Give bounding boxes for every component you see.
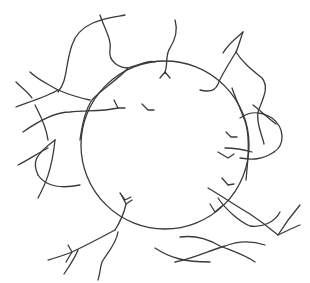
polymer-chain — [155, 248, 210, 262]
polymer-chain — [175, 242, 265, 262]
polymer-chain — [210, 204, 222, 212]
polymer-chain — [240, 152, 274, 159]
polymer-chain — [253, 105, 276, 124]
polymer-chain — [16, 82, 32, 98]
polymer-chains — [16, 15, 300, 280]
polymer-chain — [98, 232, 118, 280]
branch-tips — [120, 104, 237, 200]
polymer-chain — [236, 52, 265, 144]
polymer-chain — [160, 72, 170, 78]
polymer-chain — [114, 100, 125, 108]
particle-sphere — [81, 61, 249, 229]
polymer-chain — [222, 178, 234, 185]
polymer-chain — [23, 108, 118, 132]
branch-tip — [226, 132, 237, 137]
polymer-chain — [80, 68, 128, 140]
polymer-chain — [165, 20, 176, 72]
polymer-chain — [218, 152, 234, 158]
polymer-chain — [100, 15, 155, 68]
branch-tip — [142, 104, 154, 110]
polymer-chain — [30, 72, 90, 100]
polymer-chain — [48, 230, 115, 260]
polymer-chain — [208, 188, 300, 235]
particle-with-polymer-chains-diagram — [0, 0, 310, 283]
diagram-canvas: Sphere (particle) surrounded by wavy pol… — [0, 0, 310, 283]
polymer-chain — [18, 148, 48, 165]
polymer-chain — [16, 90, 58, 107]
